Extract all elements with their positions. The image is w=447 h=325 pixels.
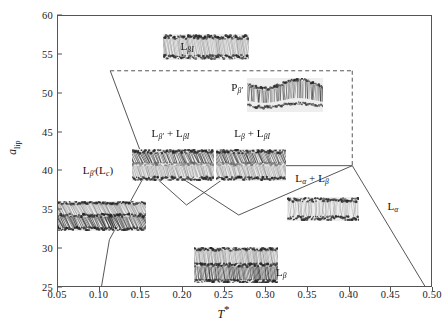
plot-area: LβIPβ'Lβ' + LβILβ + LβILβ'(Lc)Lα + LβLαL… — [57, 15, 432, 287]
y-tick-label: 55 — [23, 48, 53, 59]
region-lb: Lβ — [276, 266, 287, 278]
region-lbp-lc: Lβ'(Lc) — [83, 164, 113, 176]
x-tick-mark — [140, 287, 141, 292]
x-tick-mark — [182, 287, 183, 292]
y-tick-label: 30 — [23, 243, 53, 254]
x-tick-mark — [307, 287, 308, 292]
y-tick-mark — [57, 15, 62, 16]
y-axis-label: alip — [6, 118, 21, 178]
snapshot-lb — [194, 247, 278, 283]
x-tick-mark — [224, 287, 225, 292]
y-tick-label: 60 — [23, 10, 53, 21]
phase-diagram-figure: 2530354045505560 0.050.100.150.200.250.3… — [0, 0, 447, 325]
region-lbp-lbi: Lβ' + LβI — [152, 127, 190, 139]
x-tick-mark — [99, 287, 100, 292]
y-tick-label: 40 — [23, 165, 53, 176]
y-tick-mark — [57, 131, 62, 132]
y-axis-tick-labels: 2530354045505560 — [17, 15, 53, 287]
x-axis-label-star: * — [224, 303, 230, 315]
snapshot-lbp-lbi — [132, 149, 214, 181]
region-la-lb: Lα + Lβ — [295, 172, 329, 184]
boundary-right-down — [352, 166, 428, 286]
snapshot-lb-lbi — [216, 149, 286, 181]
y-tick-label: 45 — [23, 126, 53, 137]
x-tick-mark — [265, 287, 266, 292]
y-tick-label: 50 — [23, 87, 53, 98]
region-lb-lbi: Lβ + LβI — [234, 127, 270, 139]
snapshot-la-lb — [287, 197, 359, 221]
y-tick-mark — [57, 248, 62, 249]
x-axis-label: T* — [0, 303, 447, 322]
region-lbi: LβI — [180, 40, 193, 52]
y-tick-mark — [57, 53, 62, 54]
y-tick-mark — [57, 92, 62, 93]
snapshot-lbp-lc — [57, 201, 146, 231]
y-tick-mark — [57, 209, 62, 210]
x-tick-mark — [349, 287, 350, 292]
x-tick-mark — [390, 287, 391, 292]
region-la: Lα — [388, 200, 399, 212]
x-tick-mark — [432, 287, 433, 292]
y-tick-label: 35 — [23, 204, 53, 215]
x-tick-label: 0.50 — [410, 289, 447, 300]
snapshot-lbi — [163, 34, 249, 60]
snapshot-pbeta — [247, 78, 323, 112]
y-tick-mark — [57, 170, 62, 171]
boundary-lb-lower-left — [100, 240, 109, 286]
x-tick-mark — [57, 287, 58, 292]
region-pbeta: Pβ' — [231, 81, 243, 93]
